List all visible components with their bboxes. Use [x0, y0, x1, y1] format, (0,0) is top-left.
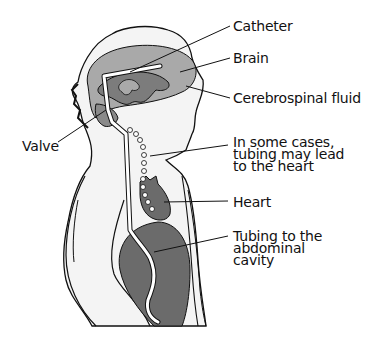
label-csf: Cerebrospinal fluid [233, 92, 361, 104]
label-catheter: Catheter [233, 20, 293, 32]
label-abdominal: Tubing to the abdominal cavity [233, 230, 322, 266]
label-heart: Heart [233, 196, 271, 208]
label-brain: Brain [233, 52, 269, 64]
label-valve: Valve [22, 140, 59, 152]
shunt-diagram: Catheter Brain Cerebrospinal fluid Valve… [0, 0, 377, 340]
label-heart-note: In some cases, tubing may lead to the he… [233, 136, 344, 172]
